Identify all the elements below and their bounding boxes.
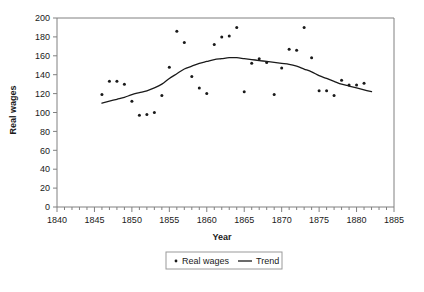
y-tick-label: 0 (45, 202, 50, 212)
y-axis: 020406080100120140160180200 (35, 13, 57, 212)
data-point (228, 34, 231, 37)
y-tick-label: 40 (40, 164, 50, 174)
y-tick-label: 120 (35, 89, 50, 99)
y-tick-label: 80 (40, 127, 50, 137)
data-point (333, 94, 336, 97)
y-tick-label: 160 (35, 51, 50, 61)
chart-figure: 020406080100120140160180200 184018451850… (0, 0, 424, 292)
real-wages-scatter-chart: 020406080100120140160180200 184018451850… (0, 0, 424, 292)
data-point (250, 62, 253, 65)
data-point (213, 43, 216, 46)
real-wages-points (100, 26, 365, 117)
data-point (340, 79, 343, 82)
data-point (138, 114, 141, 117)
data-point (220, 35, 223, 38)
data-point (295, 49, 298, 52)
data-point (198, 86, 201, 89)
data-point (145, 113, 148, 116)
x-axis-title: Year (212, 232, 232, 242)
data-point (123, 83, 126, 86)
chart-legend: Real wages Trend (166, 252, 282, 269)
y-tick-label: 60 (40, 146, 50, 156)
x-tick-label: 1860 (197, 215, 217, 225)
data-point (318, 89, 321, 92)
data-point (168, 66, 171, 69)
x-tick-label: 1855 (159, 215, 179, 225)
x-tick-label: 1875 (309, 215, 329, 225)
y-tick-label: 180 (35, 32, 50, 42)
data-point (100, 93, 103, 96)
x-tick-label: 1845 (84, 215, 104, 225)
y-tick-label: 140 (35, 70, 50, 80)
y-axis-title: Real wages (8, 85, 18, 134)
data-point (130, 100, 133, 103)
data-point (205, 92, 208, 95)
x-axis: 1840184518501855186018651870187518801885 (47, 207, 404, 225)
legend-label-real-wages: Real wages (182, 256, 230, 266)
data-point (325, 89, 328, 92)
data-point (190, 75, 193, 78)
y-tick-label: 200 (35, 13, 50, 23)
data-point (288, 48, 291, 51)
data-point (355, 84, 358, 87)
x-tick-label: 1865 (234, 215, 254, 225)
x-tick-label: 1850 (122, 215, 142, 225)
data-point (273, 93, 276, 96)
legend-dot-icon (175, 260, 178, 263)
data-point (303, 26, 306, 29)
x-tick-label: 1870 (272, 215, 292, 225)
data-point (115, 80, 118, 83)
y-tick-label: 100 (35, 108, 50, 118)
plot-frame (57, 18, 394, 207)
data-point (108, 80, 111, 83)
x-tick-label: 1880 (347, 215, 367, 225)
y-tick-label: 20 (40, 183, 50, 193)
data-point (243, 90, 246, 93)
data-point (153, 111, 156, 114)
data-point (280, 67, 283, 70)
data-point (160, 94, 163, 97)
legend-label-trend: Trend (256, 256, 279, 266)
data-point (235, 26, 238, 29)
data-point (363, 82, 366, 85)
x-tick-label: 1840 (47, 215, 67, 225)
data-point (175, 30, 178, 33)
x-tick-label: 1885 (384, 215, 404, 225)
data-point (183, 41, 186, 44)
trend-line (102, 58, 372, 103)
data-point (258, 57, 261, 60)
data-point (310, 56, 313, 59)
